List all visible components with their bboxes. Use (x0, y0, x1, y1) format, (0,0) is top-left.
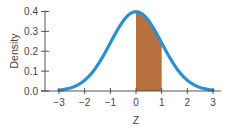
y-tick-label: 0.0 (24, 86, 38, 97)
x-tick-label: −2 (79, 97, 91, 108)
x-tick-label: 3 (210, 97, 216, 108)
x-tick-label: 2 (185, 97, 191, 108)
y-tick-label: 0.3 (24, 26, 38, 37)
y-axis: 0.00.10.20.30.4 (24, 6, 49, 97)
x-tick-label: −1 (105, 97, 117, 108)
x-tick-label: 0 (133, 97, 139, 108)
y-tick-label: 0.1 (24, 66, 38, 77)
x-axis-label: Z (133, 114, 140, 126)
y-axis-label: Density (8, 33, 20, 69)
normal-density-chart: 0.00.10.20.30.4 −3−2−10123 Z Density (0, 0, 227, 130)
y-tick-label: 0.4 (24, 6, 38, 17)
x-tick-label: −3 (53, 97, 65, 108)
y-tick-label: 0.2 (24, 46, 38, 57)
x-axis: −3−2−10123 (41, 88, 221, 108)
x-tick-label: 1 (159, 97, 165, 108)
